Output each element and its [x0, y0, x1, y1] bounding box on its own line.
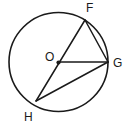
- point-label-f: F: [86, 1, 93, 15]
- point-label-g: G: [113, 56, 122, 70]
- circle-diagram-canvas: F G H O: [0, 0, 128, 126]
- segment-fh-diameter: [36, 20, 85, 101]
- point-label-h: H: [24, 110, 33, 124]
- segment-fg-chord: [85, 20, 108, 62]
- geometry-figure: F G H O: [0, 0, 128, 126]
- segment-hg-chord: [36, 62, 108, 101]
- center-point-o-dot: [56, 60, 60, 64]
- point-label-o: O: [45, 50, 54, 64]
